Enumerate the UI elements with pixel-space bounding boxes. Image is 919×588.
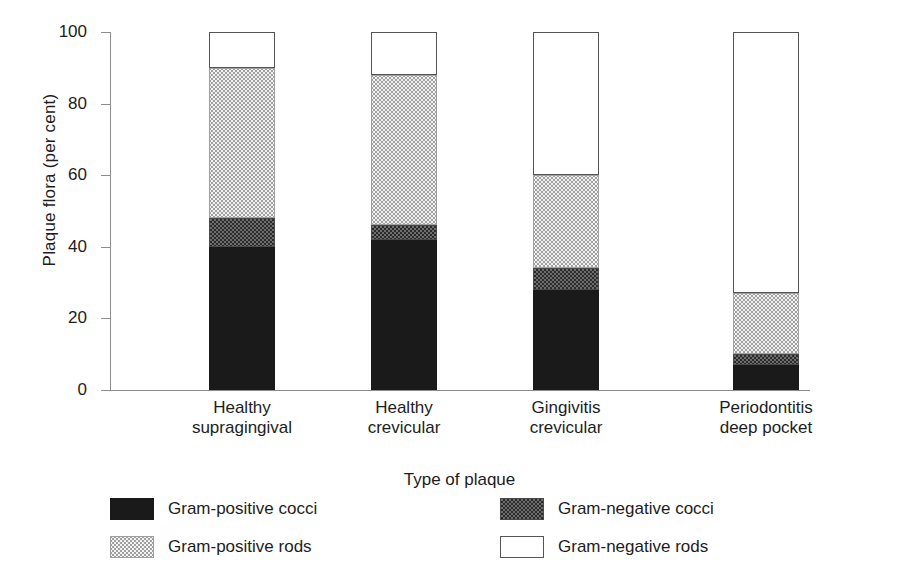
bar-segment-gnc[interactable] [733, 354, 799, 365]
x-tick-label-2: Gingivitiscrevicular [476, 398, 656, 438]
chart-root: Plaque flora (per cent) 020406080100 Hea… [0, 0, 919, 588]
y-axis-tick-label: 60 [68, 165, 87, 185]
y-axis-tick-label: 100 [59, 22, 87, 42]
y-axis-tick: 40 [101, 247, 111, 248]
bar-segment-gpc[interactable] [533, 290, 599, 390]
y-axis-tick-label: 80 [68, 94, 87, 114]
legend-swatch-icon [500, 498, 544, 520]
plot-area: 020406080100 HealthysupragingivalHealthy… [110, 32, 810, 390]
x-tick-label-line: supragingival [152, 418, 332, 438]
legend-label: Gram-negative rods [558, 537, 708, 557]
legend-swatch-icon [500, 536, 544, 558]
legend-swatch-icon [110, 536, 154, 558]
x-tick-label-line: Healthy [314, 398, 494, 418]
legend-item-dark-checker[interactable]: Gram-negative cocci [500, 498, 714, 520]
x-tick-label-3: Periodontitisdeep pocket [676, 398, 856, 438]
legend-swatch-icon [110, 498, 154, 520]
y-axis-tick-label: 40 [68, 237, 87, 257]
bar-segment-gnc[interactable] [371, 225, 437, 239]
x-axis-line [110, 390, 810, 391]
bar-segment-gnr[interactable] [209, 32, 275, 68]
bar-segment-gpc[interactable] [733, 365, 799, 390]
bar-segment-gnr[interactable] [533, 32, 599, 175]
bar-segment-gpr[interactable] [733, 293, 799, 354]
x-tick-label-1: Healthycrevicular [314, 398, 494, 438]
x-tick-label-line: Gingivitis [476, 398, 656, 418]
bar-2[interactable] [533, 32, 599, 390]
bar-3[interactable] [733, 32, 799, 390]
bar-segment-gpr[interactable] [209, 68, 275, 218]
bar-segment-gpc[interactable] [209, 247, 275, 390]
y-axis-tick: 20 [101, 318, 111, 319]
x-tick-label-line: Healthy [152, 398, 332, 418]
bar-segment-gnc[interactable] [533, 268, 599, 289]
x-tick-label-line: crevicular [314, 418, 494, 438]
x-tick-label-line: crevicular [476, 418, 656, 438]
y-axis-tick: 0 [101, 390, 111, 391]
bar-segment-gnr[interactable] [733, 32, 799, 293]
x-axis-label: Type of plaque [0, 470, 919, 490]
bar-segment-gpc[interactable] [371, 240, 437, 390]
y-axis-label: Plaque flora (per cent) [40, 30, 60, 330]
legend-item-white-outline[interactable]: Gram-negative rods [500, 536, 708, 558]
bar-0[interactable] [209, 32, 275, 390]
legend-label: Gram-positive rods [168, 537, 312, 557]
y-axis-tick: 100 [101, 32, 111, 33]
bar-1[interactable] [371, 32, 437, 390]
x-tick-label-line: deep pocket [676, 418, 856, 438]
x-tick-label-line: Periodontitis [676, 398, 856, 418]
y-axis-tick: 80 [101, 104, 111, 105]
bar-segment-gnr[interactable] [371, 32, 437, 75]
y-axis-tick: 60 [101, 175, 111, 176]
bar-segment-gnc[interactable] [209, 218, 275, 247]
y-axis-line [110, 32, 111, 390]
legend-item-light-dotted[interactable]: Gram-positive rods [110, 536, 500, 558]
x-tick-label-0: Healthysupragingival [152, 398, 332, 438]
legend-label: Gram-negative cocci [558, 499, 714, 519]
bar-segment-gpr[interactable] [533, 175, 599, 268]
legend-label: Gram-positive cocci [168, 499, 317, 519]
legend: Gram-positive cocciGram-negative cocciGr… [110, 498, 870, 574]
legend-item-solid-black[interactable]: Gram-positive cocci [110, 498, 500, 520]
legend-row: Gram-positive cocciGram-negative cocci [110, 498, 870, 520]
y-axis-tick-label: 0 [78, 380, 87, 400]
y-axis-tick-label: 20 [68, 308, 87, 328]
legend-row: Gram-positive rodsGram-negative rods [110, 536, 870, 558]
bar-segment-gpr[interactable] [371, 75, 437, 225]
